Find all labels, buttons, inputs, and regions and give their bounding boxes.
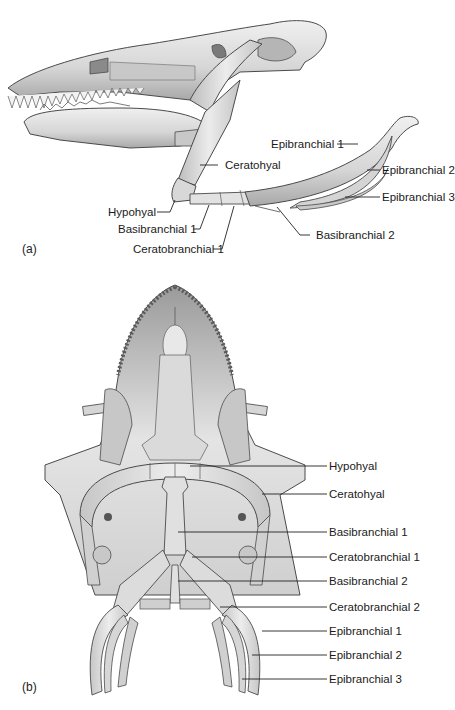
epibranchials (90, 599, 260, 695)
skull-ventral-illustration (0, 265, 453, 710)
label-ceratohyal-b: Ceratohyal (329, 488, 385, 500)
label-epibranchial-1-a: Epibranchial 1 (271, 138, 344, 150)
skull (8, 21, 326, 112)
label-epibranchial-2-a: Epibranchial 2 (382, 164, 455, 176)
label-basibranchial-1-a: Basibranchial 1 (118, 223, 197, 235)
label-ceratohyal-a: Ceratohyal (225, 159, 281, 171)
label-epibranchial-2-b: Epibranchial 2 (329, 649, 402, 661)
label-ceratobranchial-1-b: Ceratobranchial 1 (329, 551, 420, 563)
panel-letter-b: (b) (22, 680, 37, 694)
label-basibranchial-2-a: Basibranchial 2 (316, 229, 395, 241)
label-ceratobranchial-2-b: Ceratobranchial 2 (329, 601, 420, 613)
label-epibranchial-1-b: Epibranchial 1 (329, 625, 402, 637)
label-hypohyal-a: Hypohyal (108, 206, 156, 218)
label-epibranchial-3-a: Epibranchial 3 (382, 191, 455, 203)
panel-letter-a: (a) (22, 242, 37, 256)
label-basibranchial-1-b: Basibranchial 1 (329, 526, 408, 538)
panel-a-lateral-view: Epibranchial 1 Epibranchial 2 Epibranchi… (0, 0, 453, 265)
label-ceratobranchial-1-a: Ceratobranchial 1 (133, 243, 224, 255)
lower-jaw (24, 100, 212, 148)
label-epibranchial-3-b: Epibranchial 3 (329, 673, 402, 685)
label-hypohyal-b: Hypohyal (329, 460, 377, 472)
skull-lateral-illustration (0, 0, 453, 265)
label-basibranchial-2-b: Basibranchial 2 (329, 575, 408, 587)
panel-b-ventral-view: Hypohyal Ceratohyal Basibranchial 1 Cera… (0, 265, 453, 710)
